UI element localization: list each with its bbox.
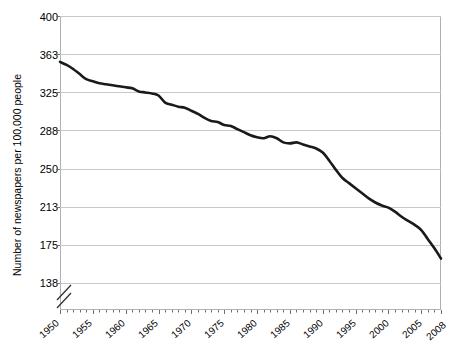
x-axis-ticks bbox=[61, 310, 442, 314]
y-axis-ticks bbox=[56, 17, 60, 284]
plot-area bbox=[0, 0, 452, 359]
newspapers-per-capita-line-chart: Number of newspapers per 100,000 people … bbox=[0, 0, 452, 359]
plot-frame bbox=[61, 17, 441, 310]
